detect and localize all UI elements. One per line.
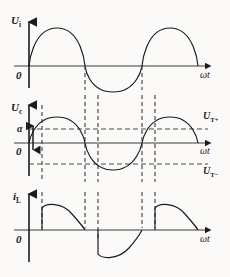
panel2-origin-label: 0	[16, 146, 22, 157]
threshold-high-label: UT+	[203, 111, 218, 121]
panel2-y-axis-label: Uc	[11, 102, 22, 113]
panel3-x-axis-label: ωt	[200, 234, 210, 244]
waveform-canvas	[0, 0, 230, 277]
panel3-pulse-positive-1	[42, 204, 85, 230]
threshold-low-label: UT−	[203, 166, 218, 176]
alpha-label: α	[17, 124, 23, 134]
panel1-y-axis-label: Ui	[11, 15, 21, 26]
panel2-x-axis-label: ωt	[200, 146, 210, 156]
panel1-waveform-ui	[29, 28, 198, 92]
panel3-pulse-positive-2	[155, 204, 198, 230]
panel3-y-axis-label: iL	[13, 191, 21, 202]
waveform-figure: Ui 0 ωt Uc α 0 ωt UT+ UT− iL 0 ωt	[0, 0, 230, 277]
panel1-x-axis-label: ωt	[200, 70, 210, 80]
panel3-pulse-negative-1	[98, 230, 142, 258]
panel3-origin-label: 0	[16, 234, 22, 245]
panel1-origin-label: 0	[16, 70, 22, 81]
